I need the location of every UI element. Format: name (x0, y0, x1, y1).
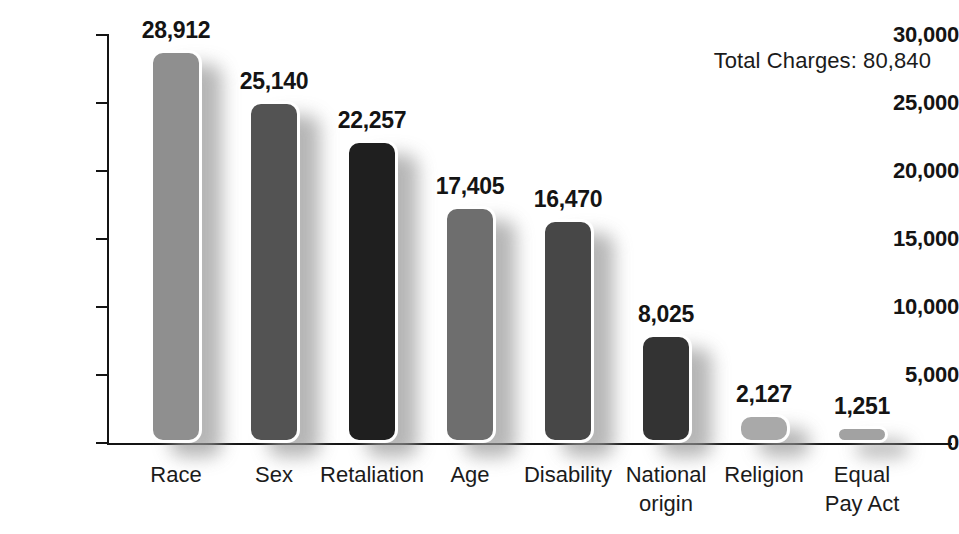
bar[interactable] (738, 414, 790, 443)
bar-value-label: 16,470 (498, 186, 638, 213)
plot-area: 05,00010,00015,00020,00025,00030,000 28,… (0, 0, 959, 534)
bar-chart: 05,00010,00015,00020,00025,00030,000 28,… (0, 0, 959, 534)
bar[interactable] (346, 140, 398, 443)
x-axis-category-label: Equal Pay Act (792, 460, 932, 518)
bar[interactable] (542, 219, 594, 443)
bar[interactable] (836, 426, 888, 443)
bar-value-label: 22,257 (302, 107, 442, 134)
bar[interactable] (248, 101, 300, 443)
bar[interactable] (444, 206, 496, 443)
bar[interactable] (640, 334, 692, 443)
bar-value-label: 25,140 (204, 68, 344, 95)
bar[interactable] (150, 50, 202, 443)
bar-value-label: 8,025 (596, 301, 736, 328)
bar-value-label: 28,912 (106, 17, 246, 44)
total-charges-annotation: Total Charges: 80,840 (714, 48, 931, 74)
bar-value-label: 1,251 (792, 393, 932, 420)
bars-layer: 28,912Race25,140Sex22,257Retaliation17,4… (0, 0, 959, 534)
